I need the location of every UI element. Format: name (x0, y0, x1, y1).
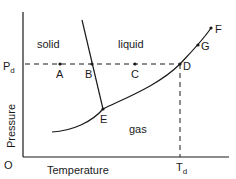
phase-diagram: solid liquid gas A B C D E G F Pressure … (0, 0, 236, 179)
pressure-tick-label: Pd (3, 60, 15, 75)
x-axis-label: Temperature (47, 164, 109, 176)
point-b-marker (90, 62, 93, 65)
origin-label: O (4, 159, 13, 171)
region-solid-label: solid (37, 38, 60, 50)
point-g-marker (196, 43, 199, 46)
point-c-label: C (131, 68, 139, 80)
point-e-marker (101, 107, 104, 110)
region-gas-label: gas (129, 123, 147, 135)
point-f-label: F (215, 23, 222, 35)
region-liquid-label: liquid (118, 38, 144, 50)
point-c-marker (133, 62, 136, 65)
y-axis-label: Pressure (5, 104, 17, 148)
point-b-label: B (85, 68, 92, 80)
point-a-marker (58, 62, 61, 65)
point-d-marker (178, 62, 181, 65)
temperature-tick-label: Td (176, 161, 187, 176)
point-f-marker (209, 26, 212, 29)
point-g-label: G (201, 40, 210, 52)
point-a-label: A (56, 68, 64, 80)
point-e-label: E (100, 113, 107, 125)
point-d-label: D (183, 60, 191, 72)
